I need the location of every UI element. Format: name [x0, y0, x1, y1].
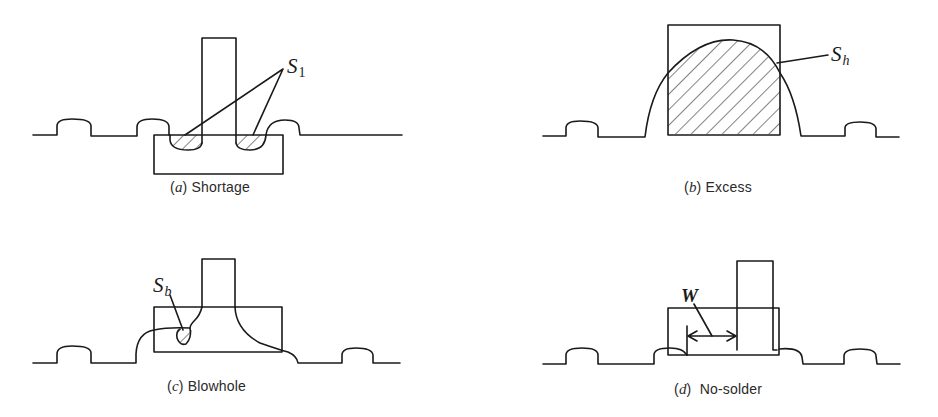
- s1-leader-lines: [185, 69, 283, 135]
- caption-a: (a) Shortage: [170, 179, 250, 196]
- pcb-surface-line: [33, 119, 402, 136]
- component-lead: [202, 259, 235, 307]
- label-sh: Sh: [831, 44, 850, 68]
- component-body: [154, 307, 282, 352]
- panel-a-shortage: [33, 38, 402, 174]
- panel-b-excess: [543, 25, 899, 137]
- panel-d-no-solder: [543, 261, 900, 364]
- caption-b: (b) Excess: [684, 179, 752, 196]
- excess-solder-mass: [668, 40, 780, 134]
- sb-leader-line: [170, 295, 183, 330]
- pcb-surface-line: [543, 348, 900, 364]
- label-w: W: [681, 286, 698, 305]
- sh-leader-line: [777, 55, 828, 63]
- caption-d: (d) No-solder: [674, 381, 762, 398]
- component-body: [668, 308, 779, 355]
- pcb-surface-line: [33, 328, 190, 363]
- caption-c: (c) Blowhole: [167, 378, 246, 395]
- label-s1: S1: [287, 56, 306, 80]
- component-lead: [737, 261, 773, 350]
- component-lead: [202, 38, 236, 143]
- panel-c-blowhole: [33, 259, 400, 363]
- label-sb: Sb: [153, 275, 172, 299]
- solder-defects-diagram: [0, 0, 938, 417]
